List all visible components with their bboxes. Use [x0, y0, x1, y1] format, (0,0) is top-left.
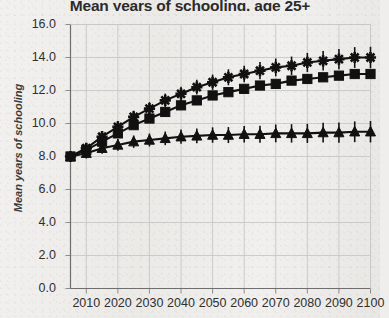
series-square — [66, 69, 375, 161]
data-series — [65, 47, 376, 162]
series-triangle — [66, 121, 376, 161]
axis-ticks — [66, 25, 371, 294]
series-star — [65, 47, 376, 162]
